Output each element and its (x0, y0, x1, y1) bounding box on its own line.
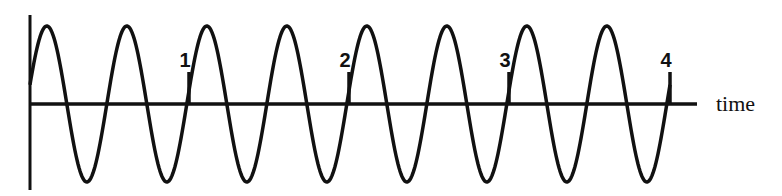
time-axis-label: time (716, 91, 755, 116)
marker-label-3: 3 (499, 49, 510, 71)
sine-wave-diagram: 1234 time (0, 0, 782, 196)
marker-label-2: 2 (339, 49, 350, 71)
marker-label-1: 1 (179, 49, 190, 71)
marker-group: 1234 (179, 49, 672, 104)
marker-label-4: 4 (660, 49, 672, 71)
